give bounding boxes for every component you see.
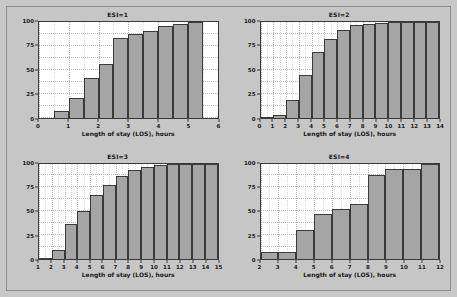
x-axis-tick-mark [362, 119, 363, 122]
x-axis-tick-mark [166, 260, 167, 263]
x-axis-tick-mark [427, 119, 428, 122]
x-axis-tick-label: 12 [410, 123, 418, 129]
y-axis-tick-label: 50 [26, 208, 34, 214]
x-axis-tick-mark [336, 119, 337, 122]
x-axis-tick-label: 7 [113, 264, 117, 270]
y-axis-tick-mark [35, 69, 38, 70]
y-axis-tick-label: 100 [244, 18, 255, 24]
y-axis-tick-mark [257, 235, 260, 236]
bar [205, 164, 218, 260]
bar [143, 31, 158, 118]
x-axis-tick-label: 12 [176, 264, 184, 270]
x-axis-tick-label: 15 [215, 264, 223, 270]
bar [261, 117, 274, 118]
x-axis-label: Length of stay (LOS), hours [260, 271, 441, 278]
bar [385, 169, 403, 259]
x-axis-tick-label: 10 [385, 123, 393, 129]
bar [192, 164, 205, 260]
x-axis-tick-mark [285, 119, 286, 122]
x-axis-tick-mark [38, 260, 39, 263]
x-axis-tick-label: 3 [276, 264, 280, 270]
x-axis-tick-mark [349, 119, 350, 122]
panel-title: ESI=2 [229, 11, 451, 19]
x-axis-tick-mark [388, 119, 389, 122]
y-axis-tick-label: 50 [26, 67, 34, 73]
plot-canvas [260, 21, 441, 119]
y-axis-tick-mark [35, 45, 38, 46]
x-axis-tick-mark [218, 119, 219, 122]
x-axis-tick-label: 8 [366, 264, 370, 270]
x-axis-tick-mark [102, 260, 103, 263]
bar [141, 167, 154, 259]
bar [312, 52, 325, 118]
x-axis-tick-mark [323, 119, 324, 122]
x-axis-tick-label: 6 [335, 123, 339, 129]
x-axis-tick-mark [98, 119, 99, 122]
y-axis-tick-label: 100 [244, 160, 255, 166]
y-axis-tick-mark [35, 235, 38, 236]
x-axis-label: Length of stay (LOS), hours [260, 130, 441, 137]
x-axis-tick-mark [440, 260, 441, 263]
bar [332, 209, 350, 259]
x-axis-tick-mark [421, 260, 422, 263]
bar [128, 170, 141, 259]
x-axis-tick-mark [403, 260, 404, 263]
y-axis-tick-label: 75 [26, 42, 34, 48]
x-axis-tick-mark [141, 260, 142, 263]
x-axis-tick-label: 3 [126, 123, 130, 129]
x-axis-tick-mark [115, 260, 116, 263]
y-axis-tick-label: 50 [248, 208, 256, 214]
figure-container: ESI=1 Cumulative Percent 025507510001234… [0, 0, 457, 297]
bar [414, 22, 427, 118]
y-axis-tick-label: 25 [26, 91, 34, 97]
y-axis-tick-label: 25 [26, 233, 34, 239]
y-axis-tick-mark [257, 45, 260, 46]
bar [350, 25, 363, 118]
x-axis-tick-mark [331, 260, 332, 263]
x-axis-label: Length of stay (LOS), hours [38, 271, 219, 278]
x-axis-tick-mark [277, 260, 278, 263]
bar [103, 185, 116, 259]
x-axis-tick-mark [259, 260, 260, 263]
y-axis-tick-mark [257, 186, 260, 187]
bar [388, 22, 401, 118]
x-axis-tick-mark [179, 260, 180, 263]
x-axis-tick-mark [188, 119, 189, 122]
bar [296, 230, 314, 259]
bar [154, 165, 167, 259]
bar [261, 252, 279, 259]
y-axis-tick-label: 75 [26, 184, 34, 190]
bar [314, 214, 332, 259]
bar [77, 211, 90, 259]
plot-canvas [260, 163, 441, 261]
x-axis-tick-label: 4 [309, 123, 313, 129]
bars-group [261, 22, 440, 118]
x-axis-tick-label: 9 [374, 123, 378, 129]
y-axis-tick-label: 75 [248, 184, 256, 190]
x-axis-tick-mark [259, 119, 260, 122]
y-axis-tick-label: 0 [30, 257, 34, 263]
plot-area-esi-1: Cumulative Percent 02550751000123456 Len… [38, 21, 219, 119]
bar [128, 34, 143, 117]
bars-group [39, 22, 218, 118]
x-axis-tick-label: 7 [348, 123, 352, 129]
plot-area-esi-2: Cumulative Percent 025507510001234567891… [260, 21, 441, 119]
y-axis-tick-label: 25 [248, 91, 256, 97]
x-axis-tick-label: 3 [296, 123, 300, 129]
figure-inner-frame: ESI=1 Cumulative Percent 025507510001234… [6, 6, 451, 291]
x-axis-tick-label: 14 [202, 264, 210, 270]
y-axis-tick-mark [257, 162, 260, 163]
x-axis-tick-mark [128, 119, 129, 122]
bar [113, 38, 128, 117]
x-axis-tick-label: 1 [66, 123, 70, 129]
bar [54, 111, 69, 118]
y-axis-tick-label: 50 [248, 67, 256, 73]
x-axis-tick-label: 9 [139, 264, 143, 270]
bar [299, 75, 312, 117]
x-axis-tick-mark [385, 260, 386, 263]
x-axis-tick-mark [89, 260, 90, 263]
x-axis-tick-label: 4 [156, 123, 160, 129]
x-axis-tick-label: 11 [163, 264, 171, 270]
x-axis-tick-mark [192, 260, 193, 263]
x-axis-tick-mark [313, 260, 314, 263]
